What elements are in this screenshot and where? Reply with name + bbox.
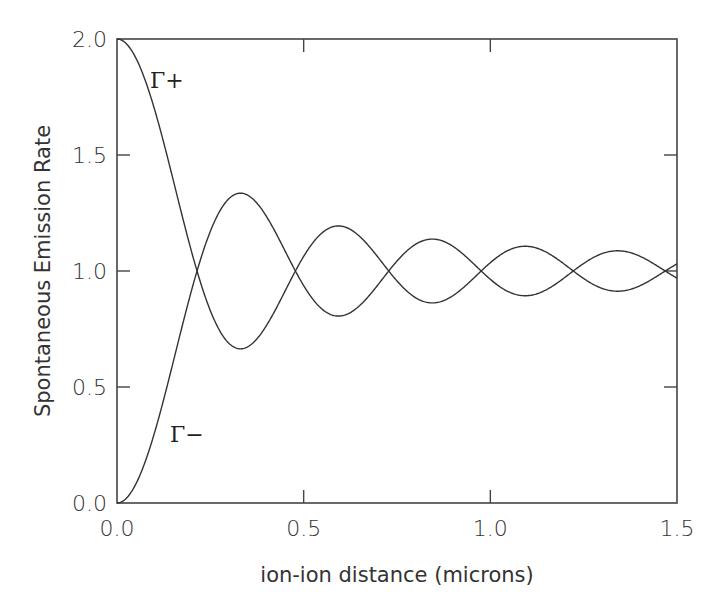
x-tick-label: 1.0 [473,516,508,541]
gamma-minus-curve [117,193,677,503]
x-axis-label: ion-ion distance (microns) [260,563,533,587]
y-axis-label: Spontaneous Emission Rate [31,125,55,417]
x-tick-label: 0.0 [100,516,135,541]
y-tick-label: 0.0 [72,491,107,516]
chart: Spontaneous Emission Rate ion-ion distan… [0,0,723,612]
y-axis-label-text: Spontaneous Emission Rate [31,125,55,417]
y-tick-label: 2.0 [72,27,107,52]
y-tick-label: 0.5 [72,375,107,400]
gamma-plus-label: Γ+ [150,68,184,93]
x-tick-label: 1.5 [660,516,695,541]
y-tick-label: 1.0 [72,259,107,284]
y-tick-label: 1.5 [72,143,107,168]
gamma-plus-curve [117,39,677,349]
x-tick-label: 0.5 [286,516,321,541]
gamma-minus-label: Γ− [170,422,204,447]
tick-labels: 0.00.51.01.50.00.51.01.52.0 [72,27,695,541]
